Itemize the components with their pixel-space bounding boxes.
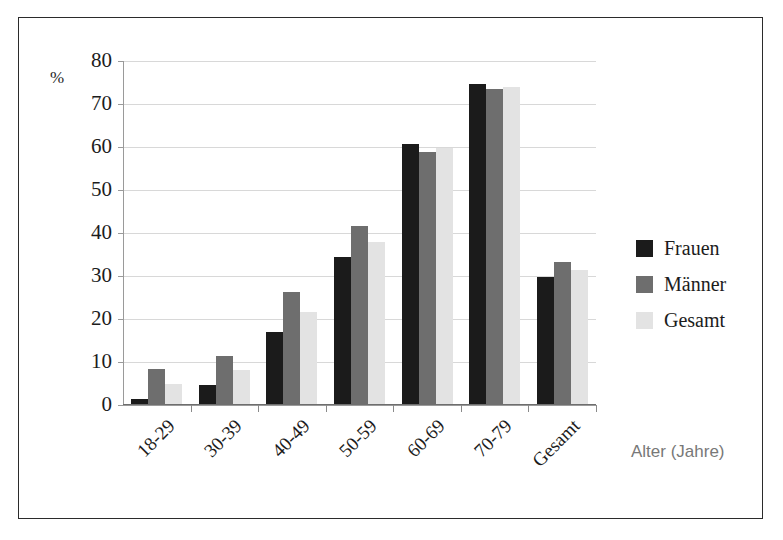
y-axis-unit-label: %: [50, 68, 64, 88]
x-axis-line: [123, 404, 596, 405]
plot-area: [123, 61, 596, 405]
bar: [351, 226, 368, 405]
bar-group: [461, 61, 529, 405]
legend-swatch-icon: [636, 276, 653, 293]
bar: [165, 384, 182, 405]
bar-group: [528, 61, 596, 405]
legend-item: Gesamt: [636, 302, 726, 338]
legend-item: Frauen: [636, 230, 726, 266]
bar: [233, 370, 250, 405]
x-axis-tick-mark: [393, 405, 394, 412]
bar-group: [123, 61, 191, 405]
bar: [402, 144, 419, 405]
legend-item: Männer: [636, 266, 726, 302]
y-axis-tick-label: 20: [66, 308, 112, 329]
x-axis-tick-mark: [191, 405, 192, 412]
y-axis-tick-mark: [118, 405, 123, 406]
bar: [554, 262, 571, 405]
x-axis-title: Alter (Jahre): [631, 442, 725, 462]
bar-group: [326, 61, 394, 405]
bar: [216, 356, 233, 405]
x-axis-tick-mark: [326, 405, 327, 412]
bar: [283, 292, 300, 405]
bar-group: [191, 61, 259, 405]
bar: [503, 87, 520, 405]
bar: [300, 312, 317, 405]
x-axis-tick-mark: [461, 405, 462, 412]
bar: [469, 84, 486, 405]
x-axis-tick-mark: [596, 405, 597, 412]
legend-label: Männer: [664, 273, 726, 296]
bar: [148, 369, 165, 405]
bar: [571, 270, 588, 405]
legend-label: Gesamt: [664, 309, 725, 332]
legend-swatch-icon: [636, 312, 653, 329]
bar: [368, 242, 385, 405]
bar: [334, 257, 351, 405]
legend-swatch-icon: [636, 240, 653, 257]
y-axis-tick-label: 60: [66, 136, 112, 157]
bar: [537, 277, 554, 405]
bar-group: [258, 61, 326, 405]
y-axis-tick-label: 0: [66, 394, 112, 415]
y-axis-tick-label: 80: [66, 50, 112, 71]
legend-label: Frauen: [664, 237, 720, 260]
bar: [436, 148, 453, 405]
plot-inner: [123, 61, 596, 405]
bar-group: [393, 61, 461, 405]
chart-legend: FrauenMännerGesamt: [636, 230, 726, 338]
y-axis-tick-label: 10: [66, 351, 112, 372]
bar: [486, 89, 503, 405]
y-axis-tick-label: 40: [66, 222, 112, 243]
y-axis-tick-label: 50: [66, 179, 112, 200]
bar: [419, 152, 436, 405]
chart-container: % 80706050403020100 18-2930-3940-4950-59…: [18, 17, 763, 519]
bar: [266, 332, 283, 405]
x-axis-tick-mark: [258, 405, 259, 412]
bar: [199, 385, 216, 405]
y-axis-tick-label: 30: [66, 265, 112, 286]
y-axis-tick-label: 70: [66, 93, 112, 114]
gridline: [123, 405, 596, 406]
x-axis-tick-mark: [528, 405, 529, 412]
